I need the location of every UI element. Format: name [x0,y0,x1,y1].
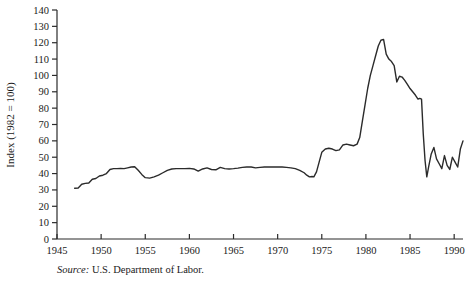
y-axis-tick-label: 30 [39,184,50,195]
x-axis-tick-labels: 1945195019551960196519701975198019851990 [47,245,465,256]
x-axis-tick-label: 1965 [223,245,244,256]
y-axis-tick-label: 60 [39,135,50,146]
y-axis-tick-label: 130 [33,21,49,32]
y-axis-tick-label: 70 [39,119,50,130]
x-axis-group: 1945195019551960196519701975198019851990 [47,234,465,256]
y-axis-title: Index (1982 = 100) [4,82,17,168]
y-axis-tick-label: 100 [33,70,49,81]
x-axis-tick-label: 1945 [47,245,68,256]
y-axis-group: 0102030405060708090100110120130140 [33,5,57,245]
y-axis-tick-label: 10 [39,217,50,228]
source-text: U.S. Department of Labor. [89,264,204,275]
x-axis-tick-label: 1955 [135,245,156,256]
x-axis-tick-label: 1975 [311,245,332,256]
source-label: Source: [57,264,89,275]
y-axis-tick-label: 140 [33,5,49,16]
chart-figure: 0102030405060708090100110120130140 19451… [0,0,474,289]
y-axis-tick-label: 80 [39,103,50,114]
x-axis-tick-label: 1970 [267,245,288,256]
y-axis-tick-labels: 0102030405060708090100110120130140 [33,5,49,245]
x-axis-tick-label: 1950 [91,245,112,256]
x-axis-tick-label: 1960 [179,245,200,256]
x-axis-tick-label: 1985 [400,245,421,256]
line-chart-svg: 0102030405060708090100110120130140 19451… [0,0,474,289]
data-series-line [75,39,463,188]
y-axis-tick-label: 50 [39,152,50,163]
source-note: Source: U.S. Department of Labor. [57,264,204,275]
y-axis-ticks [52,10,57,239]
y-axis-tick-label: 40 [39,168,50,179]
y-axis-tick-label: 90 [39,86,50,97]
y-axis-tick-label: 120 [33,37,49,48]
y-axis-tick-label: 0 [44,234,49,245]
y-axis-tick-label: 20 [39,201,50,212]
x-axis-ticks [57,234,454,239]
x-axis-tick-label: 1990 [444,245,465,256]
y-axis-tick-label: 110 [34,54,49,65]
x-axis-tick-label: 1980 [355,245,376,256]
